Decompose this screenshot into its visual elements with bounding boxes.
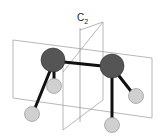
c2-axis-label: C2: [77, 12, 88, 25]
atom-terminal-right-front: [105, 118, 120, 133]
atom-central-left: [41, 48, 65, 72]
horizontal-plane: [13, 40, 152, 118]
atom-terminal-left-back: [47, 79, 62, 94]
atom-terminal-left-front: [25, 107, 40, 122]
atom-central-right: [100, 54, 124, 78]
axis-label-subscript: 2: [84, 18, 88, 25]
atom-terminal-right-back: [129, 89, 144, 104]
vertical-mirror-plane: [63, 22, 103, 130]
